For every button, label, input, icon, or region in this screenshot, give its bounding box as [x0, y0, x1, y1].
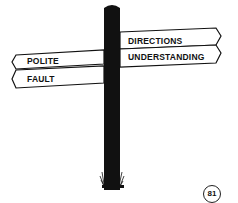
left-sign-fault-label: FAULT — [27, 74, 55, 84]
left-sign-fault: FAULT — [12, 66, 104, 88]
right-sign-directions-label: DIRECTIONS — [128, 36, 183, 46]
right-sign-understanding: UNDERSTANDING — [120, 45, 221, 67]
signpost-illustration: POLITE FAULT DIRECTIONS UNDERSTANDING — [0, 0, 238, 203]
left-sign-polite-label: POLITE — [27, 56, 59, 66]
page-number-badge: 81 — [203, 185, 221, 203]
right-sign-understanding-label: UNDERSTANDING — [128, 52, 205, 62]
